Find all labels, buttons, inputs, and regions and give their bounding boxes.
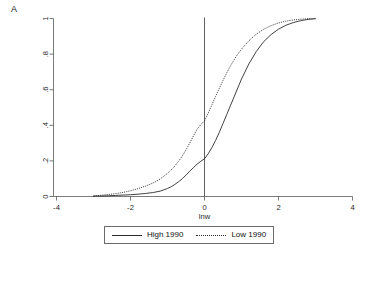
legend-key-dotted-icon [196,232,226,239]
x-axis-title: lnw [199,212,211,221]
y-tick-label: 0 [41,194,50,198]
legend-label-low-1990: Low 1990 [231,231,266,239]
y-tick-label: .8 [41,51,50,57]
y-tick-label: .4 [41,122,50,128]
x-tick-label: 0 [202,203,206,212]
x-tick-label: -2 [127,203,134,212]
x-tick-label: -4 [53,203,60,212]
x-axis-label: lnw [199,212,211,221]
y-tick-label: .6 [41,87,50,93]
cdf-chart: -4-20240.2.4.6.81 lnw [0,0,365,291]
y-tick-label: .2 [41,158,50,164]
legend-key-solid-icon [112,232,142,239]
x-tick-label: 2 [276,203,280,212]
legend-label-high-1990: High 1990 [147,231,183,239]
x-tick-label: 4 [350,203,354,212]
axes [50,19,353,201]
legend-entry-low-1990: Low 1990 [196,227,266,243]
legend-entry-high-1990: High 1990 [112,227,183,243]
tick-labels: -4-20240.2.4.6.81 [41,16,354,211]
figure-container: A -4-20240.2.4.6.81 lnw High 1990 Low 19… [0,0,365,291]
legend: High 1990 Low 1990 [104,226,274,244]
y-tick-label: 1 [41,16,50,20]
